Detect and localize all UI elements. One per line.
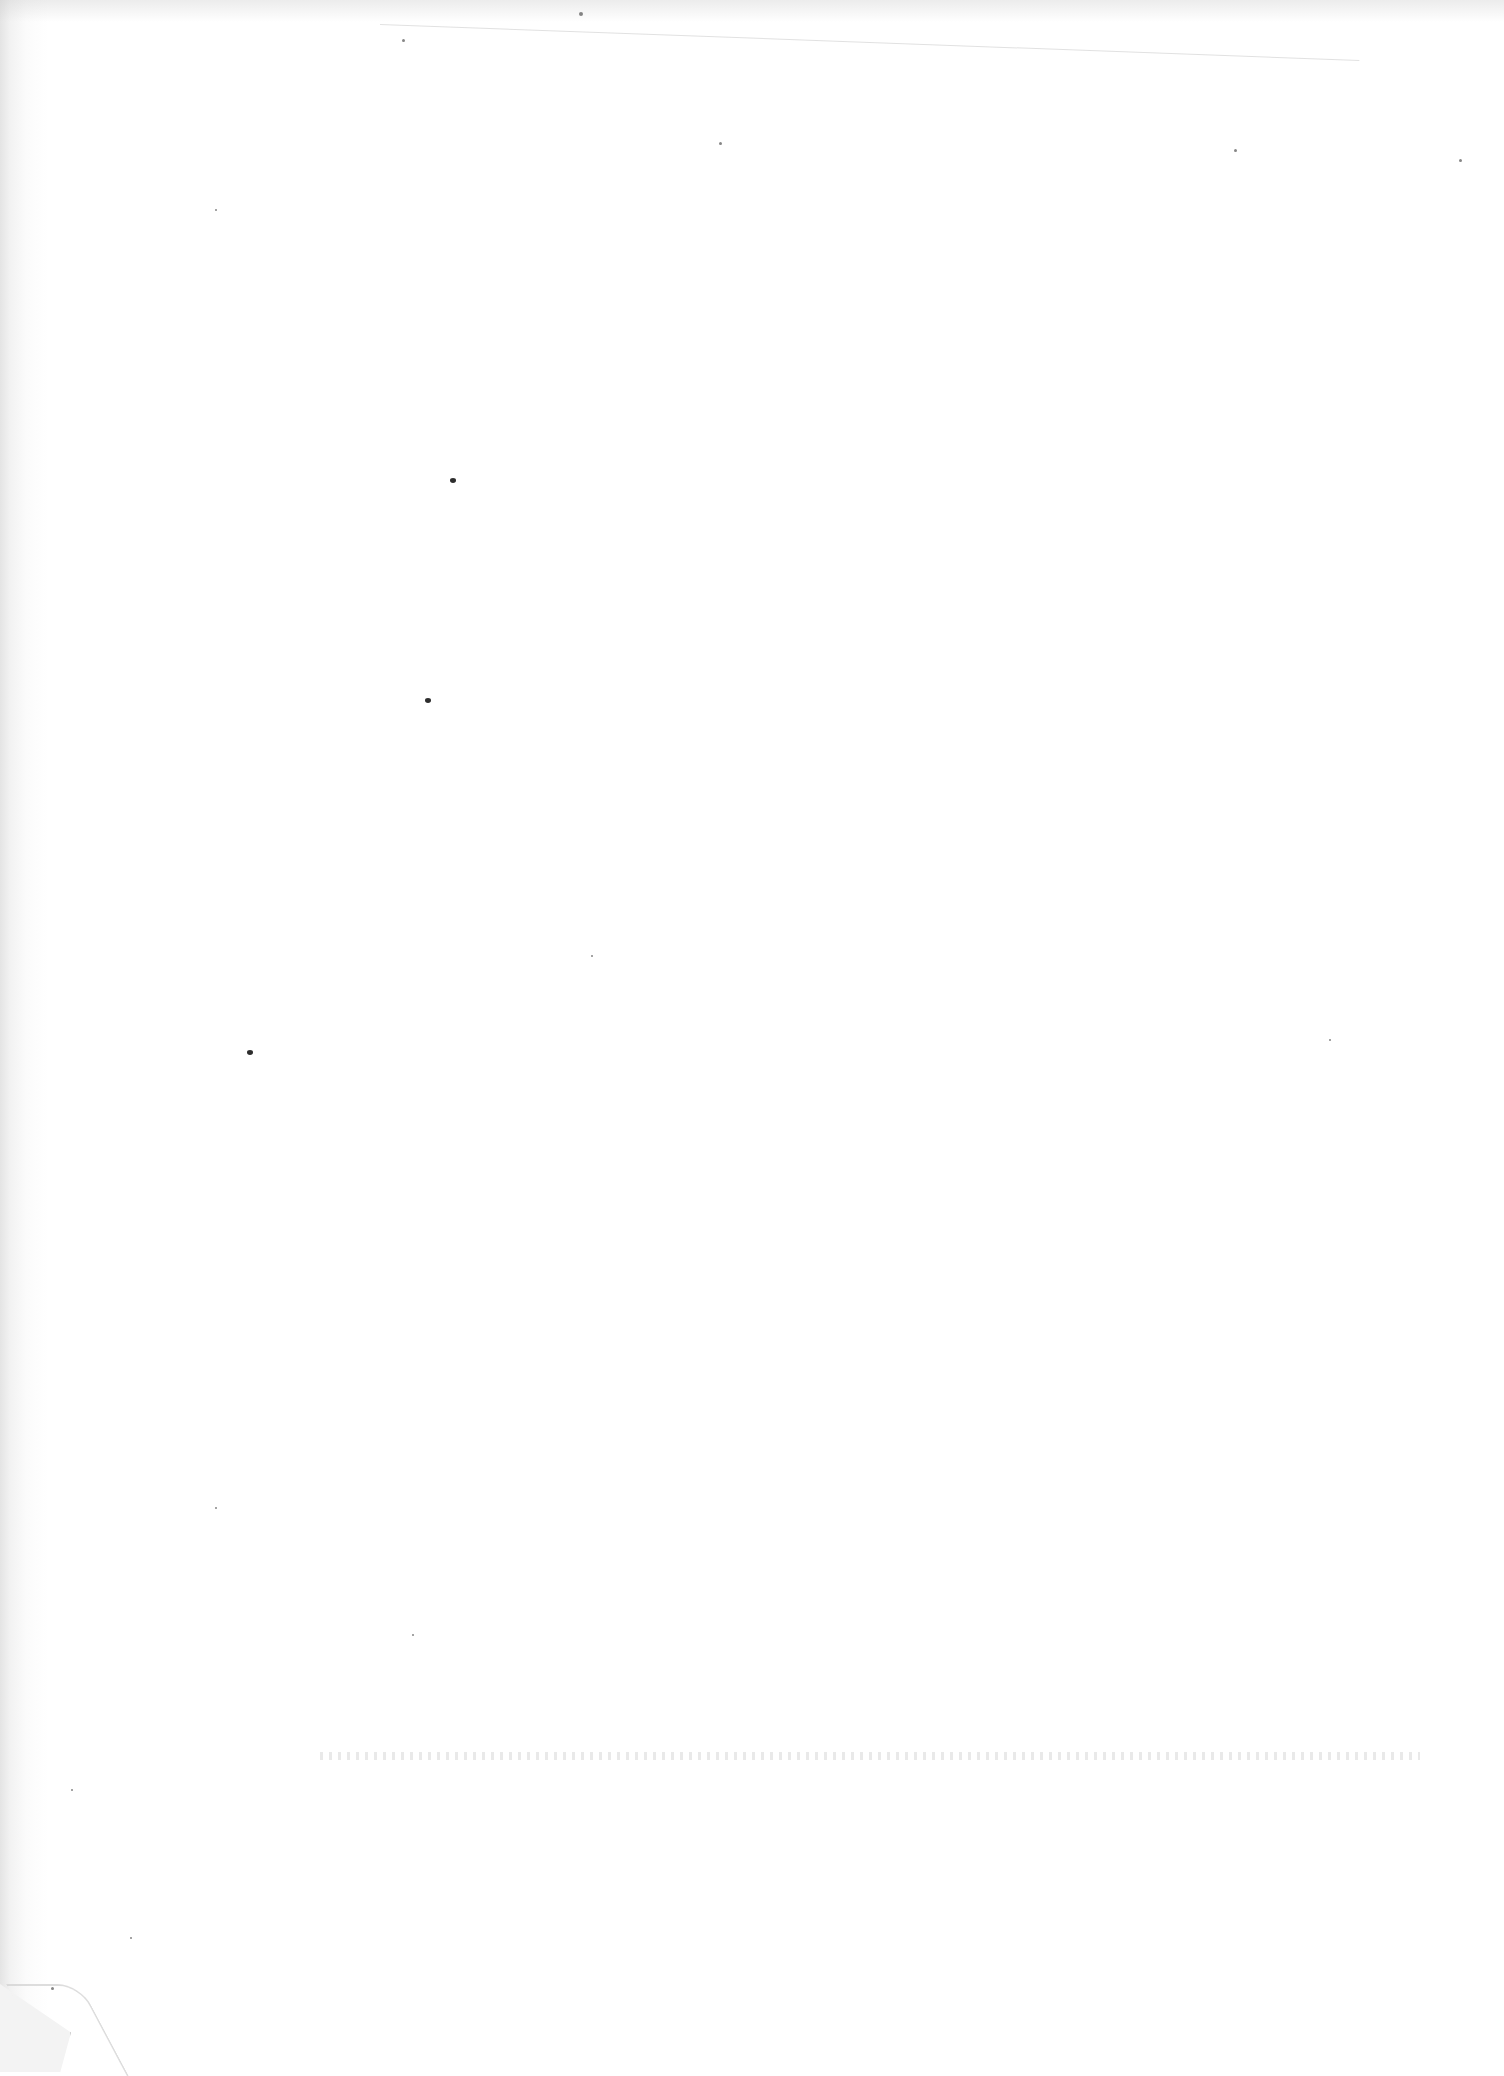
speck: [579, 12, 583, 16]
speck: [412, 1634, 414, 1636]
speck: [1329, 1039, 1331, 1041]
speck: [71, 1789, 73, 1791]
speck: [719, 142, 722, 145]
speck: [450, 478, 456, 483]
faint-top-rule: [380, 24, 1359, 61]
speck: [402, 39, 405, 42]
speck: [1459, 159, 1462, 162]
speck: [130, 1937, 132, 1939]
speck: [591, 955, 593, 957]
speck: [215, 1507, 217, 1509]
speck: [1234, 149, 1237, 152]
bleed-through-row: [320, 1752, 1420, 1760]
top-edge-shadow: [0, 0, 1504, 22]
speck: [215, 209, 217, 211]
speck: [425, 698, 431, 703]
speck: [247, 1050, 253, 1055]
